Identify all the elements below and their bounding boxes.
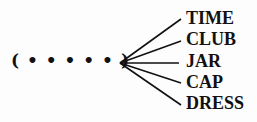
connector-line-time bbox=[120, 19, 181, 63]
connector-line-dress bbox=[120, 63, 181, 105]
word-puzzle-diagram: ( • • • • • ) TIME CLUB JAR CAP DRESS bbox=[0, 0, 257, 122]
word-dress: DRESS bbox=[186, 94, 244, 112]
word-cap: CAP bbox=[186, 73, 223, 91]
connector-line-cap bbox=[120, 63, 181, 83]
word-time: TIME bbox=[186, 9, 234, 27]
word-club: CLUB bbox=[186, 30, 236, 48]
connector-line-club bbox=[120, 41, 181, 63]
word-jar: JAR bbox=[186, 52, 221, 70]
